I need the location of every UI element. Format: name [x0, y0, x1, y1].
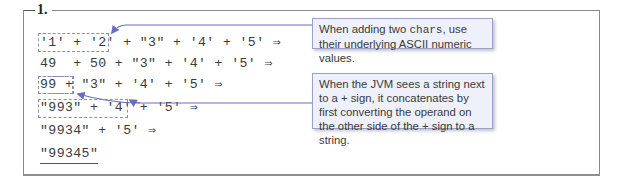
- callout-char-code: chars: [409, 24, 442, 36]
- callout-char-addition: When adding two chars, use their underly…: [312, 18, 493, 49]
- expression-step-2: 49 + 50 + "3" + '4' + '5' ⇒: [40, 56, 273, 72]
- expression-step-4: "993" + '4' + '5' ⇒: [40, 100, 198, 116]
- callout-string-concatenation: When the JVM sees a string next to a + s…: [312, 73, 493, 129]
- expression-step-5: "9934" + '5' ⇒: [40, 123, 156, 139]
- final-result: "99345": [40, 146, 98, 164]
- frame-bottom-border: [23, 174, 600, 176]
- figure-number: 1.: [37, 2, 48, 18]
- callout-char-text-before: When adding two: [319, 23, 409, 35]
- expression-step-1: '1' + '2' + "3" + '4' + '5' ⇒: [40, 35, 281, 51]
- expression-step-3: 99 + "3" + '4' + '5' ⇒: [40, 77, 223, 93]
